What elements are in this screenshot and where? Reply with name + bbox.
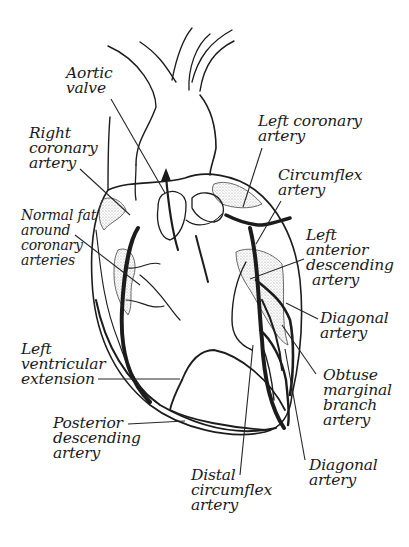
label-line: artery	[258, 129, 362, 144]
label-aortic-valve: Aortic valve	[66, 66, 113, 96]
label-left-anterior-descending-artery: Left anterior descending artery	[306, 228, 394, 288]
leader-line-obtuse-marginal-branch-artery	[282, 325, 316, 374]
label-line: artery	[278, 183, 362, 198]
label-line: artery	[53, 446, 141, 461]
label-line: valve	[66, 81, 113, 96]
leader-line-aortic-valve	[111, 99, 165, 193]
label-line: arteries	[21, 253, 96, 268]
label-line: coronary	[21, 238, 96, 253]
label-diagonal-artery-1: Diagonal artery	[320, 311, 388, 341]
label-line: extension	[21, 372, 106, 387]
coronary-arteries	[122, 215, 293, 430]
label-line: artery	[306, 273, 394, 288]
label-posterior-descending-artery: Posterior descending artery	[53, 416, 141, 461]
label-right-coronary-artery: Right coronary artery	[29, 126, 98, 171]
label-left-ventricular-extension: Left ventricular extension	[21, 342, 106, 387]
label-line: Normal fat	[21, 208, 96, 223]
label-circumflex-artery: Circumflex artery	[278, 168, 362, 198]
label-normal-fat: Normal fat around coronary arteries	[21, 208, 96, 268]
label-line: around	[21, 223, 96, 238]
label-line: artery	[191, 498, 272, 513]
label-diagonal-artery-2: Diagonal artery	[309, 458, 377, 488]
label-line: artery	[29, 156, 98, 171]
label-obtuse-marginal-branch-artery: Obtuse marginal branch artery	[323, 368, 392, 428]
label-left-coronary-artery: Left coronary artery	[258, 114, 362, 144]
label-line: artery	[323, 413, 392, 428]
label-line: artery	[309, 473, 377, 488]
label-distal-circumflex-artery: Distal circumflex artery	[191, 468, 272, 513]
label-line: artery	[320, 326, 388, 341]
